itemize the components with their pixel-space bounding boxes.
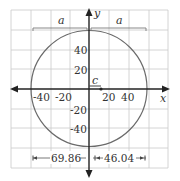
y-axis-label: y [93, 7, 101, 20]
brace-right-a [91, 28, 146, 31]
y-tick-20: 20 [74, 64, 87, 76]
x-tick-neg40: -40 [33, 91, 50, 103]
y-tick-neg20: -20 [70, 104, 87, 116]
x-tick-20: 20 [102, 91, 115, 103]
y-tick-40: 40 [74, 44, 87, 56]
brace-label-right: a [116, 14, 123, 27]
dim-left-label: 69.86 [51, 152, 81, 164]
focus-point [99, 87, 102, 90]
y-tick-neg40: -40 [70, 123, 87, 135]
coordinate-diagram: a a x y -40 -20 20 40 40 20 -20 -40 c 69… [0, 0, 180, 181]
dim-right-end-arrow-icon [140, 156, 144, 159]
x-tick-neg20: -20 [55, 91, 72, 103]
dim-right-start-arrow-icon [96, 156, 100, 159]
dim-right-label: 46.04 [104, 152, 134, 164]
y-axis-arrow-up-icon [86, 8, 93, 16]
x-tick-40: 40 [121, 91, 134, 103]
brace-label-left: a [58, 14, 65, 27]
y-axis-arrow-down-icon [86, 170, 93, 178]
brace-left-a [33, 28, 87, 31]
focus-label: c [92, 74, 98, 87]
dim-left-arrow-icon [33, 156, 37, 159]
x-axis-label: x [160, 92, 167, 105]
